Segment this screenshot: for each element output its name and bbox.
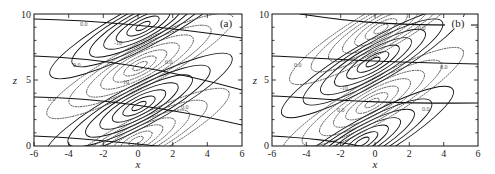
- svg-text:0.0: 0.0: [337, 107, 345, 113]
- svg-text:6: 6: [240, 148, 245, 159]
- panel-a: 0.0 0.0 0.0 0.0 0.0 -10 10 -6 -4 -2 0 2 …: [12, 0, 246, 174]
- svg-text:10: 10: [259, 9, 269, 20]
- svg-text:5: 5: [26, 74, 31, 85]
- svg-text:-4: -4: [302, 148, 310, 159]
- svg-text:4: 4: [441, 148, 446, 159]
- svg-text:0.0: 0.0: [294, 62, 302, 68]
- y-tick-labels-a: 0 5 10: [21, 9, 31, 151]
- svg-text:-2: -2: [337, 148, 345, 159]
- svg-text:0.0: 0.0: [418, 25, 426, 31]
- svg-text:-4: -4: [65, 148, 73, 159]
- svg-text:-2: -2: [99, 148, 107, 159]
- svg-text:2: 2: [407, 148, 412, 159]
- svg-text:-6: -6: [268, 148, 276, 159]
- x-axis-label-b: x: [372, 158, 378, 170]
- panel-label-a: (a): [220, 17, 233, 30]
- panel-label-b: (b): [452, 17, 465, 30]
- svg-text:6: 6: [476, 148, 481, 159]
- y-tick-labels-b: 0 5 10: [259, 9, 269, 151]
- svg-text:-10: -10: [114, 40, 122, 46]
- svg-text:10: 10: [21, 9, 31, 20]
- y-axis-label-a: z: [12, 74, 18, 86]
- svg-text:10: 10: [123, 79, 129, 85]
- svg-text:0.0: 0.0: [48, 96, 56, 102]
- svg-text:0.0: 0.0: [422, 106, 430, 112]
- svg-text:2: 2: [170, 148, 175, 159]
- svg-text:0.0: 0.0: [165, 59, 173, 65]
- svg-text:-10: -10: [340, 85, 348, 91]
- y-axis-label-b: z: [252, 74, 258, 86]
- svg-text:0: 0: [264, 140, 269, 151]
- svg-text:0.0: 0.0: [440, 64, 448, 70]
- svg-text:0.0: 0.0: [80, 21, 88, 27]
- svg-text:5: 5: [264, 74, 269, 85]
- positive-cell: [261, 71, 464, 174]
- svg-text:0: 0: [26, 140, 31, 151]
- svg-text:0.0: 0.0: [73, 62, 81, 68]
- svg-text:0.0: 0.0: [181, 104, 189, 110]
- svg-text:4: 4: [205, 148, 210, 159]
- panel-b: 0.0 0.0 0.0 0.0 0.0 -10 -6 -4 -2 0 2 4 6…: [252, 0, 483, 174]
- svg-text:-6: -6: [30, 148, 38, 159]
- x-axis-label-a: x: [135, 158, 141, 170]
- figure: 0.0 0.0 0.0 0.0 0.0 -10 10 -6 -4 -2 0 2 …: [0, 0, 495, 174]
